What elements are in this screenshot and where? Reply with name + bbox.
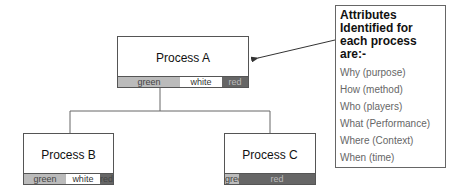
callout-item-what: What (Performance)	[340, 115, 441, 132]
process-c-green-segment: green	[225, 174, 239, 184]
process-a-title: Process A	[118, 51, 248, 65]
process-c-status-bar: green red	[225, 173, 315, 184]
process-a-status-bar: green white red	[118, 76, 248, 87]
process-a-green-segment: green	[118, 77, 180, 87]
process-b-red-segment: red	[100, 174, 113, 184]
process-b-status-bar: green white red	[24, 173, 113, 184]
process-c-box: Process C green red	[224, 133, 316, 185]
process-hierarchy-diagram: Process A green white red Process B gree…	[0, 0, 450, 190]
callout-title: Attributes Identified for each process a…	[340, 9, 441, 61]
process-c-red-segment: red	[239, 174, 315, 184]
attributes-callout: Attributes Identified for each process a…	[335, 5, 446, 168]
process-a-red-segment: red	[222, 77, 248, 87]
callout-item-who: Who (players)	[340, 98, 441, 115]
process-a-white-segment: white	[180, 77, 222, 87]
process-b-box: Process B green white red	[23, 133, 114, 185]
callout-item-why: Why (purpose)	[340, 64, 441, 81]
callout-item-how: How (method)	[340, 81, 441, 98]
process-b-title: Process B	[24, 148, 113, 162]
process-b-white-segment: white	[66, 174, 100, 184]
process-c-title: Process C	[225, 148, 315, 162]
process-b-green-segment: green	[24, 174, 66, 184]
callout-item-when: When (time)	[340, 149, 441, 166]
callout-item-where: Where (Context)	[340, 132, 441, 149]
process-a-box: Process A green white red	[117, 36, 249, 88]
